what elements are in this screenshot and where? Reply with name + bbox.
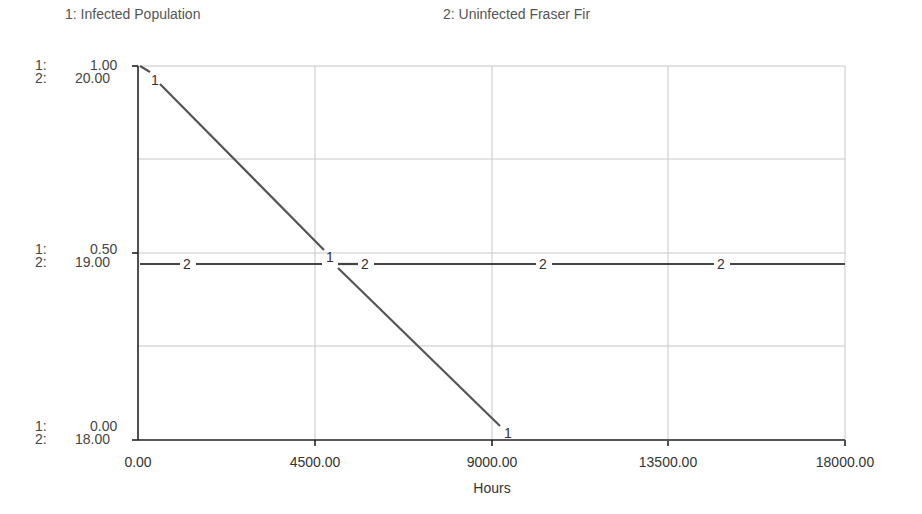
x-tick-label: 4500.00 (290, 454, 341, 470)
series-2-marker: 2 (717, 256, 725, 272)
plot-area (0, 0, 922, 514)
series-1-marker: 1 (504, 425, 512, 441)
x-tick-label: 9000.00 (467, 454, 518, 470)
x-tick-label: 18000.00 (816, 454, 874, 470)
series-2-marker: 2 (183, 256, 191, 272)
x-axis-label: Hours (473, 480, 510, 496)
x-tick-label: 0.00 (124, 454, 151, 470)
grid-lines (138, 66, 845, 440)
series-2-marker: 2 (361, 256, 369, 272)
series-2-marker: 2 (539, 256, 547, 272)
series-1-marker: 1 (326, 249, 334, 265)
series-1-marker: 1 (151, 72, 159, 88)
axes (132, 66, 845, 446)
x-tick-label: 13500.00 (639, 454, 697, 470)
